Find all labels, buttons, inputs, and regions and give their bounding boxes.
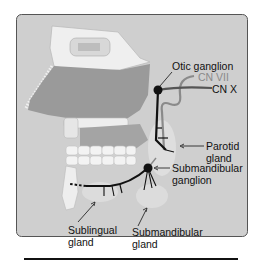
cn-x-label: CN X [212, 83, 237, 95]
diagram-canvas [0, 0, 261, 271]
sublingual-gland-label-2: gland [68, 236, 94, 248]
parotid-gland-label-1: Parotid [206, 140, 239, 152]
sinus-inner-shape [78, 43, 100, 51]
submandibular-gland-label-2: gland [132, 238, 158, 250]
bottom-divider [24, 258, 238, 260]
submandibular-ganglion-label-2: ganglion [172, 174, 212, 186]
submandibular-gland-label-1: Submandibular [132, 226, 203, 238]
submandibular-ganglion-label-1: Submandibular [172, 162, 243, 174]
submandibular-ganglion-dot [144, 164, 153, 173]
cn-vii-label: CN VII [198, 71, 229, 83]
sublingual-gland-label-1: Sublingual [68, 224, 117, 236]
otic-ganglion-dot [154, 86, 163, 95]
lower-tongue-shape [80, 124, 148, 150]
maxilla-bone [64, 118, 78, 138]
